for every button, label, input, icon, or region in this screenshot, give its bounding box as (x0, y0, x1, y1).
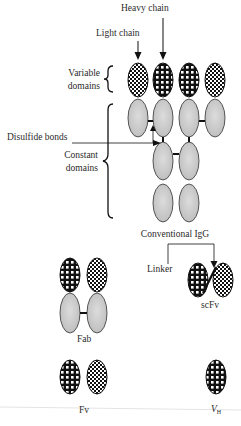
igg-variable-domains (128, 63, 225, 97)
antibody-diagram (0, 0, 241, 426)
fv-label: Fv (66, 405, 102, 416)
light-chain-arrow (135, 41, 142, 60)
heavy-chain-arrow (160, 18, 167, 60)
variable-domains-brace (104, 66, 113, 92)
constant-domains-label-line2: domains (37, 163, 98, 174)
fab-structure (60, 258, 107, 333)
linker-pointer (168, 244, 218, 268)
light-chain-label: Light chain (96, 28, 140, 39)
vh-label-subscript: H (217, 409, 221, 415)
variable-domains-label-line1: Variable (40, 68, 100, 79)
vh-label: VH (200, 404, 232, 418)
disulfide-bonds-label: Disulfide bonds (7, 132, 67, 143)
linker-label: Linker (147, 264, 172, 275)
disulfide-bonds-pointer (72, 125, 161, 146)
constant-domains-brace (103, 104, 113, 218)
constant-domains-label-line1: Constant (37, 150, 98, 161)
heavy-chain-label: Heavy chain (121, 3, 169, 14)
scfv-structure (188, 263, 233, 297)
igg-constant-domains (128, 99, 225, 222)
fv-structure (60, 360, 107, 394)
scfv-label: scFv (192, 300, 228, 311)
fab-label: Fab (66, 334, 102, 345)
variable-domains-label-line2: domains (40, 81, 100, 92)
conventional-igg-label: Conventional IgG (135, 229, 215, 240)
vh-structure (206, 360, 226, 394)
